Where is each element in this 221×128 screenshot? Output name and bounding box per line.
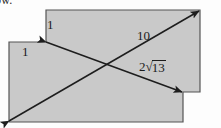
geometry-figure: ow. 1 1 10 2√13 bbox=[0, 0, 221, 128]
label-length-radical: 2√13 bbox=[139, 60, 166, 74]
radicand-value: 13 bbox=[152, 60, 166, 74]
label-side-one-left: 1 bbox=[22, 45, 29, 58]
label-side-one-top: 1 bbox=[47, 18, 54, 31]
label-length-ten: 10 bbox=[137, 29, 150, 42]
figure-canvas bbox=[0, 0, 221, 128]
